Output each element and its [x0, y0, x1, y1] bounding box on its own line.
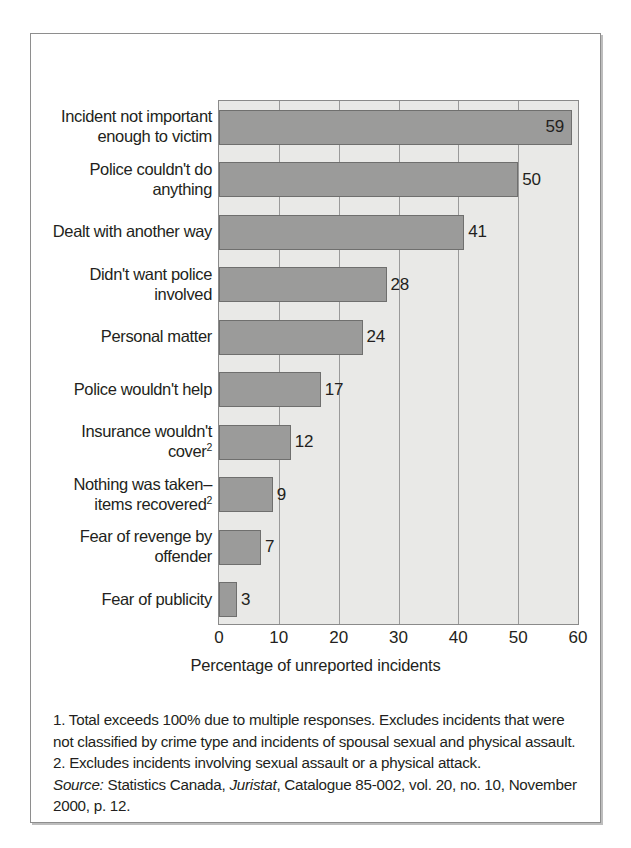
- bar[interactable]: 59: [219, 110, 572, 145]
- category-label-line: Fear of publicity: [101, 589, 212, 609]
- bar-row: 41: [219, 206, 578, 259]
- x-tick-20: 20: [329, 628, 348, 648]
- bar-value-label: 24: [367, 327, 386, 347]
- bar-row: 24: [219, 311, 578, 364]
- x-tick-0: 0: [214, 628, 223, 648]
- chart-region: Incident not importantenough to victimPo…: [31, 34, 600, 654]
- category-label: Incident not importantenough to victim: [31, 100, 212, 153]
- category-label-line: Personal matter: [101, 326, 212, 346]
- x-tick-10: 10: [269, 628, 288, 648]
- bar-value-label: 59: [546, 117, 565, 137]
- bar[interactable]: 24: [219, 320, 363, 355]
- footnote-marker: 2: [207, 493, 213, 505]
- category-label: Police couldn't doanything: [31, 153, 212, 206]
- source-publication: Juristat: [229, 776, 276, 793]
- bar-row: 28: [219, 259, 578, 312]
- source-label: Source:: [53, 776, 104, 793]
- bar[interactable]: 50: [219, 162, 518, 197]
- category-label-line: Police couldn't do: [89, 159, 212, 179]
- bar-value-label: 12: [295, 432, 314, 452]
- category-label: Fear of publicity: [31, 573, 212, 626]
- category-label-line: Dealt with another way: [53, 221, 212, 241]
- bar-value-label: 50: [522, 170, 541, 190]
- bar-value-label: 28: [391, 275, 410, 295]
- x-tick-60: 60: [569, 628, 588, 648]
- x-axis-title: Percentage of unreported incidents: [31, 656, 600, 675]
- bar-value-label: 3: [241, 590, 250, 610]
- bar-row: 7: [219, 521, 578, 574]
- bar-value-label: 17: [325, 380, 344, 400]
- bar-row: 17: [219, 364, 578, 417]
- category-label: Didn't want policeinvolved: [31, 258, 212, 311]
- x-tick-50: 50: [509, 628, 528, 648]
- source-pre: Statistics Canada,: [104, 776, 230, 793]
- category-label-line: Incident not important: [61, 106, 212, 126]
- category-label-line: items recovered2: [94, 494, 212, 514]
- category-label-line: Fear of revenge by: [80, 526, 212, 546]
- source-line: Source: Statistics Canada, Juristat, Cat…: [53, 774, 584, 817]
- category-label-line: cover2: [168, 441, 212, 461]
- footnote-2: 2. Excludes incidents involving sexual a…: [53, 752, 584, 774]
- category-label: Police wouldn't help: [31, 363, 212, 416]
- bar-row: 50: [219, 154, 578, 207]
- bar[interactable]: 41: [219, 215, 464, 250]
- footnote-1: 1. Total exceeds 100% due to multiple re…: [53, 709, 584, 752]
- x-axis-tick-labels: 0102030405060: [218, 628, 579, 654]
- bar-row: 59: [219, 101, 578, 154]
- category-label: Insurance wouldn'tcover2: [31, 415, 212, 468]
- category-label: Dealt with another way: [31, 205, 212, 258]
- x-tick-40: 40: [449, 628, 468, 648]
- bar-value-label: 9: [277, 485, 286, 505]
- category-label: Personal matter: [31, 310, 212, 363]
- category-label-line: Nothing was taken–: [73, 474, 212, 494]
- category-label-column: Incident not importantenough to victimPo…: [31, 100, 212, 625]
- category-label-line: Didn't want police: [89, 264, 212, 284]
- category-label-line: involved: [154, 284, 212, 304]
- category-label-line: enough to victim: [97, 126, 212, 146]
- bars-layer: 59504128241712973: [219, 101, 578, 624]
- category-label: Fear of revenge byoffender: [31, 520, 212, 573]
- bar[interactable]: 17: [219, 372, 321, 407]
- bar[interactable]: 3: [219, 582, 237, 617]
- bar-row: 3: [219, 574, 578, 627]
- x-tick-30: 30: [389, 628, 408, 648]
- plot-area: 59504128241712973: [218, 100, 579, 625]
- category-label-line: offender: [155, 546, 212, 566]
- bar-value-label: 7: [265, 537, 274, 557]
- bar-value-label: 41: [468, 222, 487, 242]
- footnotes-block: 1. Total exceeds 100% due to multiple re…: [53, 709, 584, 817]
- bar-row: 9: [219, 469, 578, 522]
- category-label-line: Insurance wouldn't: [81, 421, 212, 441]
- figure-frame: Incident not importantenough to victimPo…: [30, 33, 601, 823]
- bar[interactable]: 9: [219, 477, 273, 512]
- bar[interactable]: 28: [219, 267, 387, 302]
- category-label: Nothing was taken–items recovered2: [31, 468, 212, 521]
- category-label-line: Police wouldn't help: [74, 379, 212, 399]
- bar-row: 12: [219, 416, 578, 469]
- bar[interactable]: 12: [219, 425, 291, 460]
- bar[interactable]: 7: [219, 530, 261, 565]
- category-label-line: anything: [152, 179, 212, 199]
- footnote-marker: 2: [207, 441, 213, 453]
